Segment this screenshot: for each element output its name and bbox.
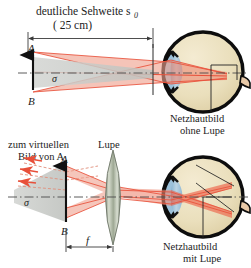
label-retina-top-1: Netzhautbild (170, 113, 225, 124)
label-A-top: A (27, 42, 35, 54)
label-retina-bottom-1: Netzhautbild (163, 241, 218, 252)
focal-length-dimension (66, 228, 113, 252)
red-arrow-2 (20, 169, 38, 172)
heading-distance-value: ( 25 cm) (53, 19, 92, 32)
label-retina-top-2: ohne Lupe (180, 125, 225, 136)
magnifier-lens (106, 150, 121, 245)
label-retina-bottom-2: mit Lupe (183, 253, 222, 264)
heading-sehweite: deutliche Sehweite s (36, 5, 131, 17)
label-A-bottom: A (60, 153, 68, 165)
label-f: f (86, 234, 91, 246)
top-diagram: deutliche Sehweite s 0 ( 25 cm) (18, 5, 250, 136)
label-virtual-1: zum virtuellen (8, 139, 70, 150)
label-lupe: Lupe (98, 139, 120, 150)
sigma-wedge-bottom (14, 163, 66, 222)
label-B-top: B (28, 95, 35, 107)
heading-sehweite-sub: 0 (134, 11, 138, 20)
dimension-line-s0 (28, 28, 153, 56)
optics-figure: deutliche Sehweite s 0 ( 25 cm) (0, 0, 251, 268)
label-B-bottom: B (61, 225, 68, 237)
bottom-diagram: zum virtuellen Bild von A Lupe (8, 139, 250, 264)
figure-canvas: deutliche Sehweite s 0 ( 25 cm) (0, 0, 251, 268)
